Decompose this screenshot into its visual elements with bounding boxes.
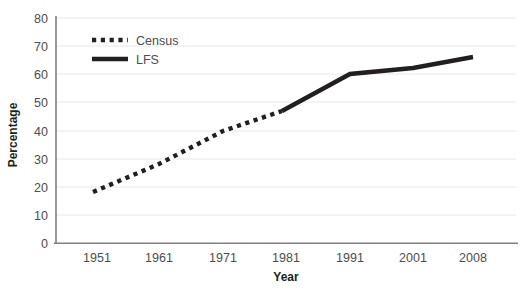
chart-container: 80 70 60 50 40 30 20 10 0 1951 1961 1971… [0,0,522,291]
x-tick-1991: 1991 [336,251,364,265]
x-axis-title: Year [273,270,299,284]
y-tick-0: 0 [41,237,48,251]
y-tick-20: 20 [34,181,48,195]
y-axis-title: Percentage [6,102,20,167]
x-tick-1971: 1971 [209,251,237,265]
y-tick-30: 30 [34,153,48,167]
y-tick-40: 40 [34,125,48,139]
series-census-line [93,111,282,192]
x-tick-1981: 1981 [272,251,300,265]
x-tick-1961: 1961 [145,251,173,265]
y-tick-50: 50 [34,96,48,110]
chart-legend: Census LFS [92,34,178,67]
y-tick-60: 60 [34,68,48,82]
x-tick-2008: 2008 [459,251,487,265]
x-tick-2001: 2001 [399,251,427,265]
line-chart: 80 70 60 50 40 30 20 10 0 1951 1961 1971… [0,0,522,291]
gridlines [56,18,516,215]
y-tick-10: 10 [34,209,48,223]
legend-label-census: Census [136,34,178,48]
y-tick-labels: 80 70 60 50 40 30 20 10 0 [34,12,48,251]
x-tick-labels: 1951 1961 1971 1981 1991 2001 2008 [83,251,487,265]
legend-label-lfs: LFS [136,53,159,67]
y-tick-80: 80 [34,12,48,26]
x-tick-1951: 1951 [83,251,111,265]
series-lfs-line [282,57,473,111]
y-tick-70: 70 [34,40,48,54]
